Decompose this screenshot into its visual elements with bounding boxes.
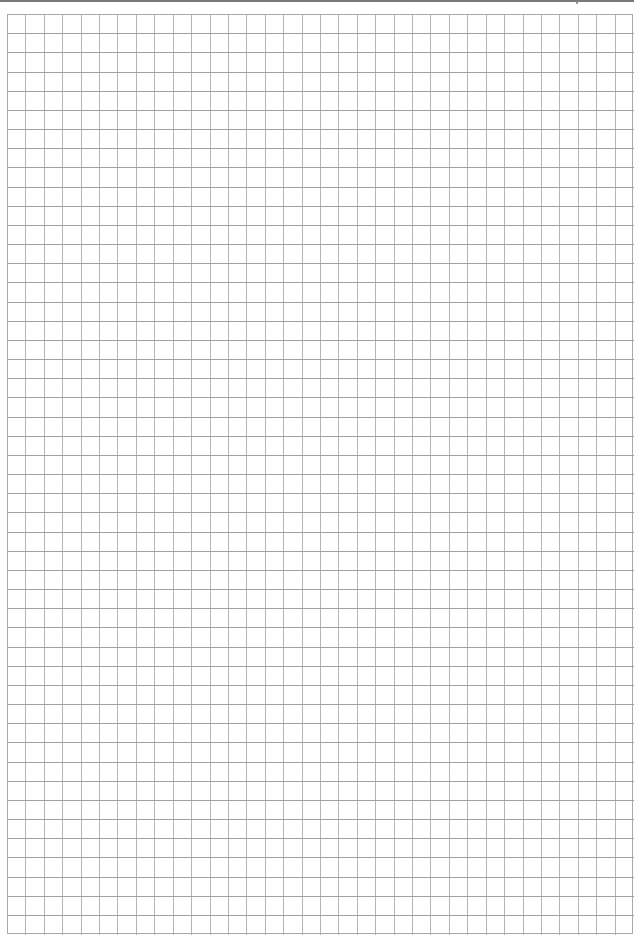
grid-lines-svg: [8, 15, 634, 935]
scan-artifact-mark: [576, 2, 578, 4]
top-rule: [0, 0, 634, 2]
grid-lines: [8, 15, 632, 933]
grid-paper: [7, 14, 633, 934]
